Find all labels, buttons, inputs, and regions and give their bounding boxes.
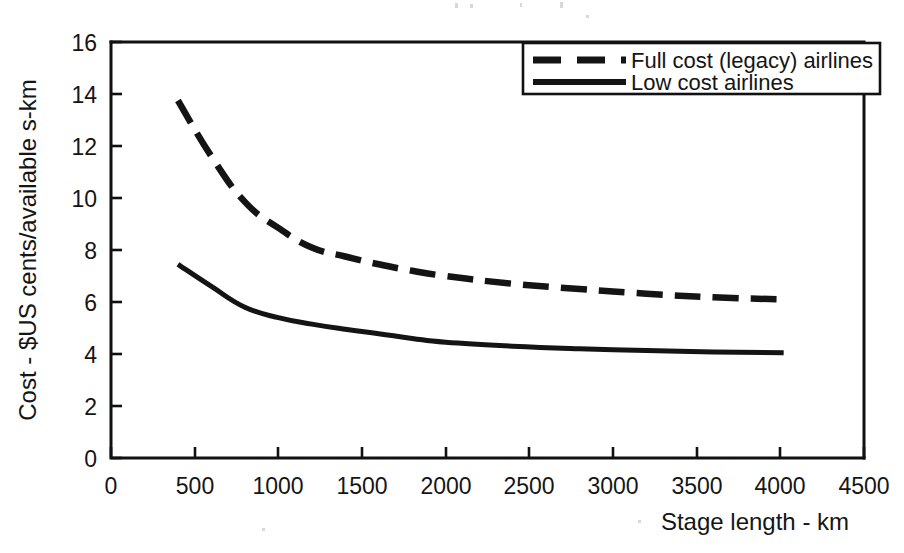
- x-tick-label: 1500: [336, 473, 387, 499]
- x-axis-ticks: [111, 447, 864, 458]
- y-tick-label: 4: [84, 342, 97, 368]
- x-tick-label: 4500: [838, 473, 889, 499]
- cost-vs-stage-length-chart: 0 2 4 6 8 10 12 14 16 0 500 1000 1500 20…: [0, 0, 904, 553]
- y-tick-label: 6: [84, 290, 97, 316]
- x-tick-label: 1000: [252, 473, 303, 499]
- y-tick-label: 0: [84, 446, 97, 472]
- y-axis-ticks: [111, 42, 122, 458]
- y-tick-label: 10: [71, 186, 97, 212]
- plot-axes: [111, 42, 864, 458]
- chart-figure: 0 2 4 6 8 10 12 14 16 0 500 1000 1500 20…: [0, 0, 904, 553]
- x-axis-title: Stage length - km: [661, 508, 849, 535]
- series-line-low-cost-airlines: [178, 264, 784, 352]
- y-tick-label: 8: [84, 238, 97, 264]
- y-axis-title: Cost - $US cents/available s-km: [14, 79, 41, 420]
- x-tick-label: 2500: [503, 473, 554, 499]
- chart-legend[interactable]: Full cost (legacy) airlines Low cost air…: [523, 43, 880, 95]
- y-tick-label: 14: [71, 82, 97, 108]
- y-tick-label: 12: [71, 134, 97, 160]
- data-series-group: [178, 101, 784, 353]
- x-axis-tick-labels: 0 500 1000 1500 2000 2500 3000 3500 4000…: [105, 473, 890, 499]
- x-tick-label: 3500: [671, 473, 722, 499]
- x-tick-label: 4000: [754, 473, 805, 499]
- legend-label-low-cost: Low cost airlines: [631, 70, 794, 95]
- y-tick-label: 16: [71, 30, 97, 56]
- series-line-full-cost-legacy-airlines: [178, 101, 784, 300]
- x-tick-label: 0: [105, 473, 118, 499]
- x-tick-label: 500: [176, 473, 214, 499]
- x-tick-label: 2000: [420, 473, 471, 499]
- x-tick-label: 3000: [587, 473, 638, 499]
- y-tick-label: 2: [84, 394, 97, 420]
- y-axis-tick-labels: 0 2 4 6 8 10 12 14 16: [71, 30, 97, 472]
